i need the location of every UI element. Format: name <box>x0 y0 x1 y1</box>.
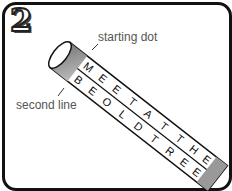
scytale-illustration: MEE TAT THE BEO LDT REE <box>0 0 232 191</box>
